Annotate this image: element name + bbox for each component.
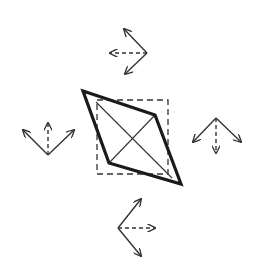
deformation-diagram: [0, 0, 257, 261]
arrow-glyphs: [23, 29, 241, 256]
diagram-canvas: [0, 0, 257, 261]
diagonal-line: [96, 102, 172, 178]
arrow-glyph-bottom-icon: [118, 199, 155, 256]
diagonals: [96, 102, 172, 178]
arrow-glyph-right-icon: [193, 118, 241, 153]
arrow-glyph-left-icon: [23, 123, 74, 155]
arrow-glyph-top-icon: [110, 29, 147, 74]
